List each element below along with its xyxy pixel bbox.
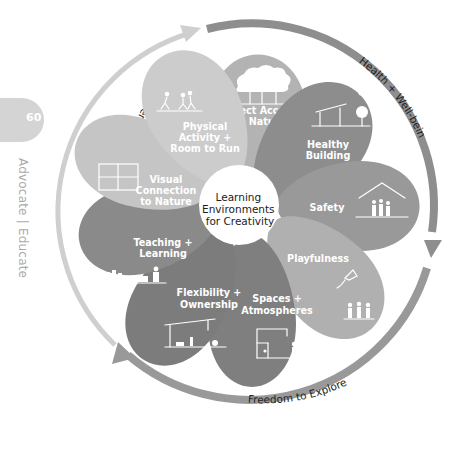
petal-label-playfulness: Playfulness — [287, 253, 349, 264]
petal-label-flexibility-ownership: Flexibility +Ownership — [177, 287, 242, 310]
petal-label-teaching-learning: Teaching +Learning — [133, 237, 192, 259]
petal-label-healthy-building: HealthyBuilding — [306, 139, 351, 161]
petal-label-safety: Safety — [310, 202, 346, 213]
interest-arrowhead-icon — [180, 25, 201, 42]
health-arrowhead-icon — [424, 240, 442, 258]
creativity-diagram: Health + Well-being Freedom to Explore I… — [0, 0, 460, 453]
